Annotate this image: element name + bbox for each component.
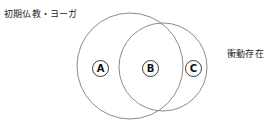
left-set-label: 初期仏教・ヨーガ <box>4 9 78 20</box>
right-set-label: 衝動存在 <box>227 49 264 60</box>
region-marker-b: B <box>142 60 159 77</box>
region-marker-c: C <box>185 60 202 77</box>
diagram-canvas: 初期仏教・ヨーガ 衝動存在 A B C <box>0 0 273 125</box>
region-marker-a: A <box>92 60 109 77</box>
